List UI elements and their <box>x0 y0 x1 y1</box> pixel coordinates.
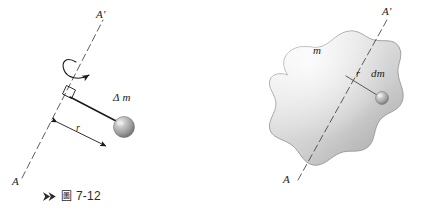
axis-top-label-a-prime: A' <box>382 6 391 17</box>
rotation-axis-line <box>22 20 103 178</box>
figure-7-12-drawing <box>0 0 210 218</box>
point-mass-label-delta-m: Δ m <box>113 92 131 103</box>
figure-7-12: A' A Δ m r 圖 7-12 <box>0 0 210 218</box>
figure-7-13: A' A m r dm 圖 7-13 <box>210 0 421 218</box>
caption-number: 7-12 <box>76 190 101 202</box>
axis-top-label-a-prime: A' <box>96 9 105 20</box>
radius-dimension-arrow <box>57 122 106 146</box>
body-mass-label-m: m <box>313 45 321 56</box>
axis-bottom-label-a: A <box>12 176 19 187</box>
radius-label-r: r <box>356 69 360 79</box>
figure-7-12-caption: 圖 7-12 <box>42 190 101 202</box>
mass-element-label-dm: dm <box>371 68 385 79</box>
rotation-direction-arrow <box>63 60 89 79</box>
right-angle-mark <box>63 86 76 99</box>
mass-element-sphere <box>376 92 389 105</box>
axis-bottom-label-a: A <box>283 174 290 185</box>
figure-page: A' A Δ m r 圖 7-12 <box>0 0 421 218</box>
radius-rod <box>70 97 118 122</box>
figure-7-13-drawing <box>210 0 421 218</box>
radius-label-r: r <box>76 123 80 133</box>
caption-marker-icon <box>42 190 57 202</box>
point-mass-sphere <box>114 117 135 138</box>
caption-cjk-label: 圖 <box>61 191 72 202</box>
